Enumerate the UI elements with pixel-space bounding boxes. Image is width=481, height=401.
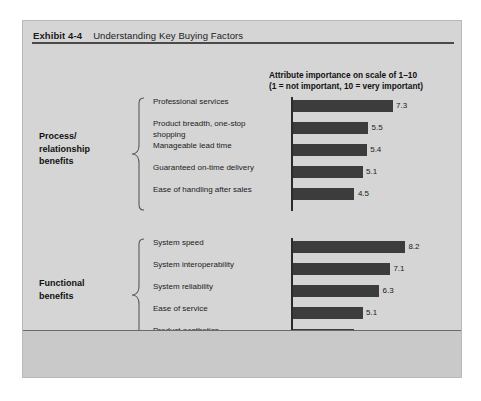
list-item-label: Ease of handling after sales [153,185,271,196]
group-label-line-1: Functional [39,277,125,290]
list-item-label: System reliability [153,282,271,293]
group-label-line-2: benefits [39,290,125,303]
bar [293,144,367,156]
bar [293,285,379,297]
table-row: Manageable lead time 5.4 [153,141,461,163]
chart-area: Attribute importance on scale of 1–10 (1… [23,44,461,330]
list-item-label: System speed [153,238,271,249]
bar-value-label: 5.1 [366,308,377,317]
bar-value-label: 5.5 [372,123,383,132]
list-item-label: Professional services [153,97,271,108]
group-brace-process-relationship [130,97,146,215]
table-row: System reliability 6.3 [153,282,461,304]
table-row: Guaranteed on-time delivery 5.1 [153,163,461,185]
table-row: Product breadth, one-stop shopping 5.5 [153,119,461,141]
bar-track: 5.1 [293,307,461,319]
bar-track: 4.5 [293,188,461,200]
bar-track: 8.2 [293,241,461,253]
list-item-label: Ease of service [153,304,271,315]
group-label-line-2: relationship [39,143,125,156]
list-item-label: System interoperability [153,260,271,271]
exhibit-title-bar: Exhibit 4-4Understanding Key Buying Fact… [23,21,461,42]
footer-divider [23,330,461,331]
bar [293,188,354,200]
bar-track: 5.1 [293,166,461,178]
bar [293,307,363,319]
list-item-label: Guaranteed on-time delivery [153,163,271,174]
table-row: Ease of service 5.1 [153,304,461,326]
bar-value-label: 6.3 [383,286,394,295]
table-row: Ease of handling after sales 4.5 [153,185,461,207]
bar-value-label: 5.1 [366,167,377,176]
bar [293,263,390,275]
group-rows-process-relationship: Professional services 7.3 Product breadt… [153,97,461,207]
exhibit-footer [23,330,461,377]
group-label-line-3: benefits [39,155,125,168]
table-row: System interoperability 7.1 [153,260,461,282]
bar-track: 6.3 [293,285,461,297]
exhibit-number: Exhibit 4-4 [33,30,82,41]
exhibit-panel: Exhibit 4-4Understanding Key Buying Fact… [22,20,462,378]
bar [293,122,368,134]
bar-track: 5.4 [293,144,461,156]
group-label-functional: Functional benefits [39,277,125,302]
bar-value-label: 5.4 [370,145,381,154]
bar-value-label: 7.3 [396,101,407,110]
list-item-label: Manageable lead time [153,141,271,152]
list-item-label: Product breadth, one-stop shopping [153,119,271,140]
bar-track: 7.3 [293,100,461,112]
caption-line-1: Attribute importance on scale of 1–10 [269,70,469,81]
table-row: Professional services 7.3 [153,97,461,119]
bar-track: 7.1 [293,263,461,275]
group-label-process-relationship: Process/ relationship benefits [39,130,125,168]
bar [293,100,393,112]
group-label-line-1: Process/ [39,130,125,143]
chart-caption: Attribute importance on scale of 1–10 (1… [269,70,469,92]
bar-value-label: 7.1 [393,264,404,273]
page-title: Understanding Key Buying Factors [93,30,243,41]
table-row: System speed 8.2 [153,238,461,260]
exhibit-page: Exhibit 4-4Understanding Key Buying Fact… [0,0,481,401]
bar [293,241,405,253]
bar [293,166,363,178]
bar-track: 5.5 [293,122,461,134]
caption-line-2: (1 = not important, 10 = very important) [269,81,469,92]
bar-value-label: 4.5 [358,189,369,198]
bar-value-label: 8.2 [408,242,419,251]
